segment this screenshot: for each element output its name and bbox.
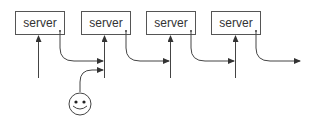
- server-label-4: server: [219, 16, 252, 30]
- smiley-face-icon: [69, 93, 91, 115]
- server-box-2: server: [82, 12, 131, 35]
- forward-arrow-4: [256, 32, 300, 61]
- server-box-3: server: [147, 12, 196, 35]
- server-chain-diagram: server server server server: [0, 0, 313, 120]
- forward-arrow-2: [126, 32, 169, 61]
- server-label-3: server: [154, 16, 187, 30]
- server-box-4: server: [212, 12, 261, 35]
- server-label-2: server: [89, 16, 122, 30]
- server-box-1: server: [16, 12, 65, 35]
- client-arrow: [80, 70, 103, 92]
- server-label-1: server: [23, 16, 56, 30]
- forward-arrow-1: [60, 32, 103, 61]
- forward-arrow-3: [191, 32, 234, 61]
